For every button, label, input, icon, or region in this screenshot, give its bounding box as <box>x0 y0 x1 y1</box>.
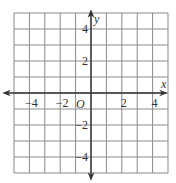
x-tick-label: 4 <box>152 96 158 110</box>
y-tick-label: −2 <box>75 118 88 132</box>
y-tick-label: 2 <box>82 54 88 68</box>
origin-label: O <box>76 97 85 111</box>
coordinate-grid: −4−22442−2−4 x y O <box>0 0 176 183</box>
x-tick-label: 2 <box>121 96 127 110</box>
x-tick-label: −4 <box>25 96 38 110</box>
x-axis-label: x <box>160 77 167 91</box>
y-axis-label: y <box>93 12 100 26</box>
x-tick-label: −2 <box>56 96 69 110</box>
y-tick-label: −4 <box>75 150 88 164</box>
y-tick-label: 4 <box>82 22 88 36</box>
